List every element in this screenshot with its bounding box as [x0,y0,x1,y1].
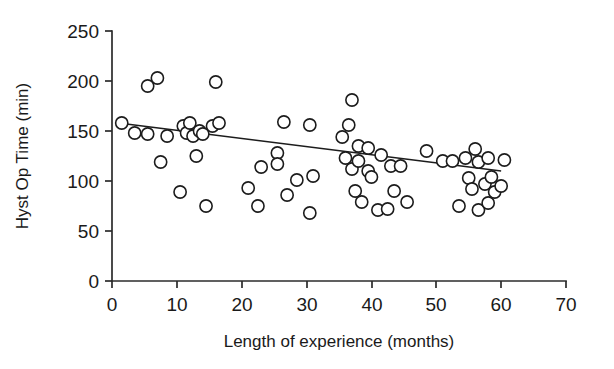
data-point [271,158,283,170]
data-point [339,152,351,164]
data-point [116,117,128,129]
y-tick-label-250: 250 [67,21,99,42]
data-point [420,145,432,157]
data-point [482,197,494,209]
x-tick-label-40: 40 [361,294,382,315]
data-point [190,150,202,162]
y-tick-label-150: 150 [67,121,99,142]
data-point [498,154,510,166]
data-point [336,131,348,143]
data-point [482,152,494,164]
data-point [291,174,303,186]
data-point [307,170,319,182]
data-point [346,94,358,106]
data-point [155,156,167,168]
data-point [213,117,225,129]
y-axis-title: Hyst Op Time (min) [13,83,32,229]
x-tick-labels: 0 10 20 30 40 50 60 70 [107,294,577,315]
data-point [255,161,267,173]
plot-canvas: 250 200 150 100 50 0 0 10 20 30 40 50 60… [0,0,614,369]
y-tick-marks [105,31,112,281]
x-tick-label-60: 60 [490,294,511,315]
y-tick-label-100: 100 [67,171,99,192]
x-axis-title: Length of experience (months) [224,332,455,351]
data-point [446,155,458,167]
data-point [174,186,186,198]
data-point [210,76,222,88]
data-point [395,160,407,172]
data-point [278,116,290,128]
data-point [304,119,316,131]
data-point [343,119,355,131]
data-point [142,128,154,140]
data-point [356,196,368,208]
y-tick-labels: 250 200 150 100 50 0 [67,21,99,292]
y-tick-label-0: 0 [88,271,99,292]
data-point [453,200,465,212]
x-tick-label-20: 20 [231,294,252,315]
data-point [362,142,374,154]
data-point [242,182,254,194]
x-tick-label-0: 0 [107,294,118,315]
data-point [375,149,387,161]
y-tick-label-200: 200 [67,71,99,92]
data-point [469,143,481,155]
data-point [161,130,173,142]
data-point [495,180,507,192]
data-point [281,189,293,201]
data-point [466,183,478,195]
x-tick-label-10: 10 [166,294,187,315]
data-point [352,155,364,167]
data-point [485,171,497,183]
data-point [349,185,361,197]
data-point [382,203,394,215]
x-tick-label-70: 70 [555,294,576,315]
data-point [151,72,163,84]
data-point [365,171,377,183]
data-point [459,152,471,164]
data-point [129,127,141,139]
y-tick-label-50: 50 [78,221,99,242]
x-tick-marks [112,281,566,288]
data-point [200,200,212,212]
x-tick-label-30: 30 [296,294,317,315]
data-point [304,207,316,219]
data-points-group [116,72,511,219]
x-tick-label-50: 50 [425,294,446,315]
data-point [401,196,413,208]
data-point [252,200,264,212]
scatter-plot-figure: 250 200 150 100 50 0 0 10 20 30 40 50 60… [0,0,614,369]
data-point [388,185,400,197]
